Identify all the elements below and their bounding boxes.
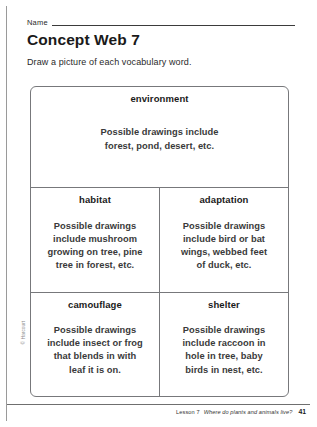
- instruction-text: Draw a picture of each vocabulary word.: [27, 57, 191, 67]
- page-title: Concept Web 7: [27, 31, 140, 49]
- concept-web-table: environment Possible drawings includefor…: [30, 86, 289, 397]
- answer-text: Possible drawingsinclude mushroomgrowing…: [47, 220, 142, 273]
- vocabulary-term: shelter: [208, 300, 240, 310]
- answer-text: Possible drawings includeforest, pond, d…: [100, 126, 218, 152]
- page-left-margin-rule: [6, 6, 7, 421]
- vocabulary-term: environment: [130, 94, 188, 104]
- vocabulary-term: adaptation: [199, 195, 248, 205]
- concept-web-cell-shelter[interactable]: shelter Possible drawingsinclude raccoon…: [160, 293, 288, 396]
- concept-web-cell-adaptation[interactable]: adaptation Possible drawingsinclude bird…: [160, 188, 288, 291]
- concept-web-cell-environment[interactable]: environment Possible drawings includefor…: [31, 87, 288, 187]
- concept-web-row-middle: habitat Possible drawingsinclude mushroo…: [31, 188, 288, 292]
- concept-web-row-top: environment Possible drawings includefor…: [31, 87, 288, 188]
- worksheet-page: Name Concept Web 7 Draw a picture of eac…: [0, 0, 317, 427]
- answer-text: Possible drawingsinclude raccoon inhole …: [182, 324, 265, 377]
- footer-lesson-title: Where do plants and animals live?: [204, 409, 293, 415]
- vocabulary-term: habitat: [79, 195, 111, 205]
- footer-divider: [7, 404, 310, 405]
- vocabulary-term: camouflage: [68, 300, 122, 310]
- concept-web-row-bottom: camouflage Possible drawingsinclude inse…: [31, 293, 288, 396]
- name-label: Name: [27, 18, 48, 28]
- name-write-in-line[interactable]: [52, 25, 295, 26]
- concept-web-cell-camouflage[interactable]: camouflage Possible drawingsinclude inse…: [31, 293, 160, 396]
- concept-web-cell-habitat[interactable]: habitat Possible drawingsinclude mushroo…: [31, 188, 160, 291]
- name-field-row: Name: [27, 14, 295, 28]
- footer-lesson-label: Lesson 7: [176, 409, 200, 415]
- footer: Lesson 7 Where do plants and animals liv…: [176, 408, 306, 415]
- answer-text: Possible drawingsinclude insect or frogt…: [47, 324, 143, 377]
- page-number: 41: [298, 408, 306, 415]
- answer-text: Possible drawingsinclude bird or batwing…: [181, 220, 267, 273]
- copyright-notice: © Harcourt: [21, 290, 26, 376]
